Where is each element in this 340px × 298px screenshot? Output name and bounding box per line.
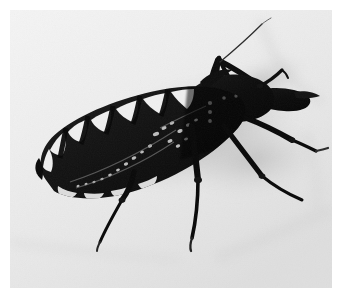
film-grain (10, 10, 332, 288)
photograph (10, 10, 332, 288)
photograph-canvas (10, 10, 332, 288)
page-root (0, 0, 340, 298)
